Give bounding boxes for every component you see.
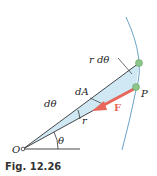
- label-r-dtheta: r dθ: [89, 54, 109, 65]
- label-r: r: [82, 115, 88, 126]
- point-P: [133, 84, 140, 91]
- label-dtheta: dθ: [44, 98, 56, 109]
- figure-caption: Fig. 12.26: [5, 161, 61, 172]
- label-F: F: [114, 102, 121, 113]
- label-O: O: [12, 144, 20, 155]
- label-theta: θ: [58, 135, 64, 146]
- origin-point: [21, 147, 25, 151]
- rdtheta-leader: [118, 58, 132, 74]
- label-P: P: [140, 88, 148, 99]
- label-dA: dA: [75, 86, 89, 97]
- point-next: [136, 60, 143, 67]
- radius-line-upper: [23, 63, 139, 149]
- orbit-sector-diagram: r dθ dA dθ P F r θ O Fig. 12.26: [0, 0, 157, 176]
